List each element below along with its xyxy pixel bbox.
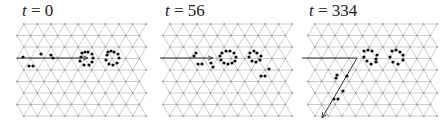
lattice-canvas	[0, 0, 445, 123]
trajectory-arrow	[302, 58, 357, 118]
particles-t56	[192, 49, 270, 77]
lattice-t56	[162, 23, 293, 117]
lattice-t0	[16, 23, 147, 117]
lattice-t334	[307, 23, 438, 117]
